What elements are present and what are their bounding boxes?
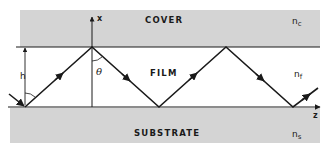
substrate-label: SUBSTRATE: [134, 129, 200, 138]
theta-arc: [92, 57, 102, 61]
z-axis-label: z: [313, 112, 318, 120]
incident-ray: [9, 94, 24, 106]
cover-label: COVER: [145, 16, 183, 25]
substrate-index: ns: [292, 130, 301, 141]
thickness-label: h: [20, 72, 26, 81]
ray-arrow-4: [256, 74, 264, 81]
incidence-arc: [25, 93, 35, 97]
ray-arrow-5: [302, 94, 310, 100]
x-axis-label: x: [97, 15, 102, 23]
ray-arrow-2: [122, 74, 130, 81]
ray-arrow-3: [189, 73, 197, 80]
film-label: FILM: [150, 69, 178, 78]
cover-index: nc: [292, 17, 302, 28]
film-index: nf: [294, 70, 302, 81]
waveguide-diagram: COVER FILM SUBSTRATE nc nf ns x z h θ: [0, 0, 328, 154]
ray-arrow-1: [55, 73, 63, 80]
theta-label: θ: [96, 67, 102, 77]
